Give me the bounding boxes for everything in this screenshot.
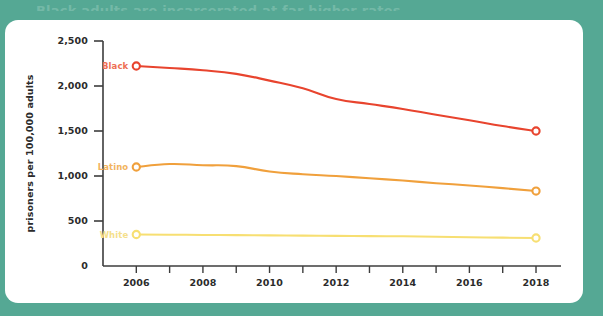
y-tick-label: 2,500 (57, 35, 88, 46)
y-tick-label: 2,000 (57, 80, 88, 91)
x-tick-label: 2006 (123, 277, 150, 288)
series-label-latino: Latino (98, 162, 129, 172)
series-marker-latino (532, 187, 539, 194)
chart-plot-area: 05001,0001,5002,0002,500 200620082010201… (5, 20, 583, 303)
y-axis-title: prisoners per 100,000 adults (24, 74, 35, 232)
series-markers (133, 62, 540, 241)
x-tick-label: 2014 (389, 277, 416, 288)
series-marker-black (133, 62, 140, 69)
series-line-latino (136, 164, 536, 191)
series-marker-black (532, 127, 539, 134)
y-tick-label: 0 (81, 260, 88, 271)
x-tick-label: 2012 (323, 277, 350, 288)
series-label-black: Black (102, 61, 129, 71)
series-marker-white (133, 231, 140, 238)
y-tick-label: 500 (68, 215, 88, 226)
x-axis-ticks (136, 266, 536, 273)
series-marker-latino (133, 163, 140, 170)
series-line-white (136, 235, 536, 239)
y-axis-tick-labels: 05001,0001,5002,0002,500 (57, 35, 88, 271)
x-tick-label: 2016 (456, 277, 483, 288)
x-tick-label: 2018 (523, 277, 550, 288)
clipped-headline: Black adults are incarcerated at far hig… (0, 0, 603, 11)
series-marker-white (532, 234, 539, 241)
series-lines (136, 66, 536, 238)
series-line-black (136, 66, 536, 131)
y-tick-label: 1,500 (57, 125, 88, 136)
chart-card: 05001,0001,5002,0002,500 200620082010201… (5, 20, 583, 303)
line-chart: 05001,0001,5002,0002,500 200620082010201… (5, 20, 583, 303)
series-label-white: White (100, 230, 129, 240)
x-tick-label: 2008 (190, 277, 217, 288)
x-tick-label: 2010 (256, 277, 283, 288)
x-axis-tick-labels: 2006200820102012201420162018 (123, 277, 550, 288)
y-tick-label: 1,000 (57, 170, 88, 181)
